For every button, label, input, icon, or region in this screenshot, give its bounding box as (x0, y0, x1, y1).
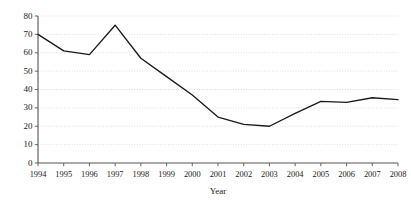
x-tick-label: 2001 (210, 170, 227, 179)
x-tick-label: 2002 (235, 170, 252, 179)
x-tick-label: 1995 (55, 170, 72, 179)
y-tick-label: 50 (24, 66, 34, 76)
x-tick-label: 2003 (261, 170, 278, 179)
y-tick-label: 20 (24, 121, 34, 131)
y-axis-tick-labels: 01020304050607080 (24, 11, 34, 168)
x-tick-label: 2000 (184, 170, 201, 179)
x-tick-label: 1998 (132, 170, 149, 179)
x-tick-label: 1994 (30, 170, 48, 179)
y-tick-label: 60 (24, 47, 34, 57)
x-tick-label: 2007 (364, 170, 381, 179)
x-tick-label: 2008 (390, 170, 407, 179)
x-tick-label: 2004 (287, 170, 305, 179)
gridlines (38, 16, 398, 145)
x-axis-title: Year (210, 186, 227, 196)
x-tick-label: 1999 (158, 170, 175, 179)
x-tick-label: 1996 (81, 170, 98, 179)
x-axis-tick-labels: 1994199519961997199819992000200120022003… (30, 170, 407, 179)
y-tick-label: 40 (24, 84, 34, 94)
y-tick-label: 10 (24, 139, 34, 149)
x-tick-label: 2006 (338, 170, 355, 179)
x-tick-label: 1997 (107, 170, 124, 179)
y-tick-label: 80 (24, 11, 34, 21)
y-tick-label: 0 (28, 158, 33, 168)
data-series-line (38, 25, 398, 126)
chart-canvas: 01020304050607080 1994199519961997199819… (0, 0, 411, 206)
y-tick-label: 70 (24, 29, 34, 39)
line-chart-figure: 01020304050607080 1994199519961997199819… (0, 0, 411, 206)
y-tick-label: 30 (24, 102, 34, 112)
x-tick-label: 2005 (312, 170, 329, 179)
